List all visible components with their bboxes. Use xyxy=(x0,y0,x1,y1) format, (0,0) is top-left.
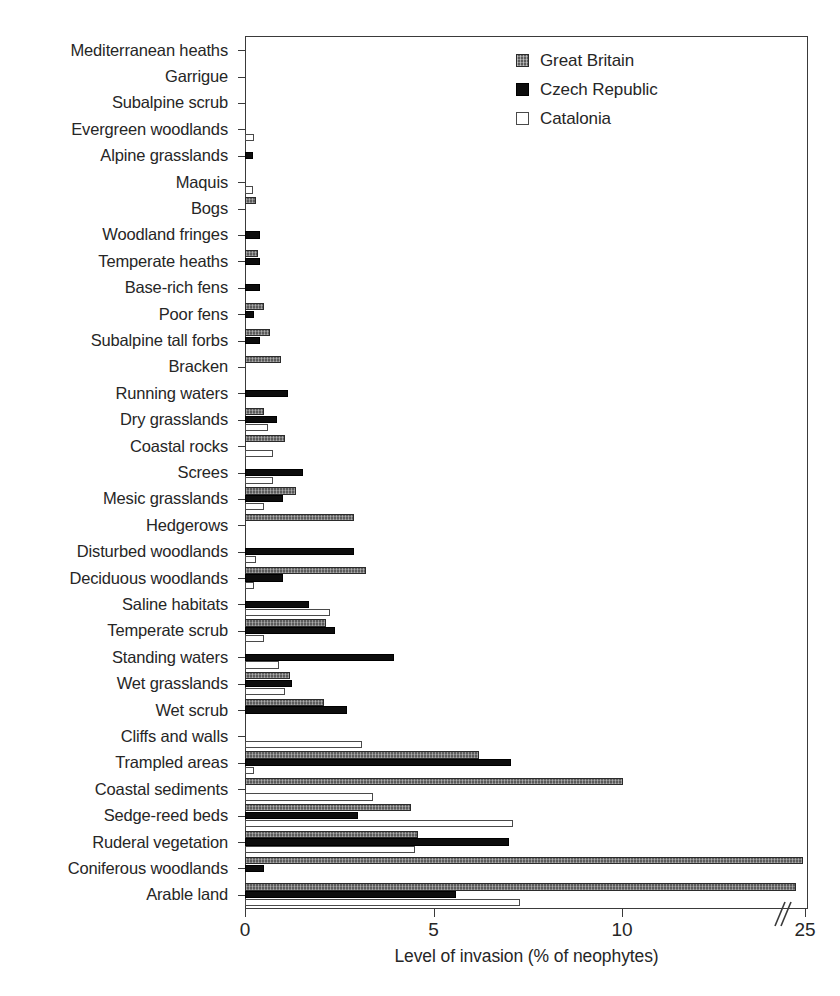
bar-czech-republic xyxy=(245,891,456,898)
bar-group-bogs xyxy=(245,195,808,221)
y-axis-label-saline-habitats: Saline habitats xyxy=(122,596,228,613)
bar-czech-republic xyxy=(245,311,254,318)
bar-great-britain xyxy=(245,699,324,706)
bar-great-britain xyxy=(245,857,803,864)
x-axis-tick-25 xyxy=(805,909,806,917)
bar-catalonia xyxy=(245,424,268,431)
invasion-level-bar-chart: Mediterranean heathsGarrigueSubalpine sc… xyxy=(0,0,840,996)
bar-czech-republic xyxy=(245,337,260,344)
bar-great-britain xyxy=(245,883,796,890)
bar-great-britain xyxy=(245,672,290,679)
bar-great-britain xyxy=(245,514,354,521)
bar-czech-republic xyxy=(245,601,309,608)
y-axis-tick xyxy=(238,50,245,51)
y-axis-label-maquis: Maquis xyxy=(176,174,228,191)
bar-group-arable-land xyxy=(245,882,808,908)
y-axis-label-running-waters: Running waters xyxy=(115,385,228,402)
bar-czech-republic xyxy=(245,865,264,872)
bar-catalonia xyxy=(245,450,273,457)
y-axis-tick xyxy=(238,129,245,130)
y-axis-label-temperate-heaths: Temperate heaths xyxy=(98,253,228,270)
y-axis-tick xyxy=(238,736,245,737)
bar-catalonia xyxy=(245,899,520,906)
y-axis-tick xyxy=(238,77,245,78)
y-axis-label-bracken: Bracken xyxy=(169,358,228,375)
legend-label: Czech Republic xyxy=(540,80,658,100)
bar-catalonia xyxy=(245,609,330,616)
legend-item-catalonia[interactable]: Catalonia xyxy=(516,106,658,131)
legend-item-great-britain[interactable]: Great Britain xyxy=(516,48,658,73)
y-axis-label-woodland-fringes: Woodland fringes xyxy=(102,226,228,243)
y-axis-category-labels: Mediterranean heathsGarrigueSubalpine sc… xyxy=(0,37,238,908)
bar-czech-republic xyxy=(245,627,335,634)
bar-catalonia xyxy=(245,186,253,193)
bar-czech-republic xyxy=(245,284,260,291)
bar-great-britain xyxy=(245,778,623,785)
bar-group-dry-grasslands xyxy=(245,407,808,433)
y-axis-tick xyxy=(238,156,245,157)
y-axis-label-mediterranean-heaths: Mediterranean heaths xyxy=(70,42,228,59)
bar-czech-republic xyxy=(245,574,283,581)
y-axis-tick xyxy=(238,288,245,289)
bar-group-temperate-heaths xyxy=(245,248,808,274)
y-axis-tick xyxy=(238,657,245,658)
bar-catalonia xyxy=(245,846,415,853)
y-axis-tick xyxy=(238,789,245,790)
y-axis-label-coastal-sediments: Coastal sediments xyxy=(95,781,228,798)
bar-group-base-rich-fens xyxy=(245,275,808,301)
y-axis-tick xyxy=(238,684,245,685)
bar-group-bracken xyxy=(245,354,808,380)
legend-item-czech-republic[interactable]: Czech Republic xyxy=(516,77,658,102)
bar-group-coastal-sediments xyxy=(245,776,808,802)
y-axis-label-dry-grasslands: Dry grasslands xyxy=(120,411,228,428)
bar-czech-republic xyxy=(245,812,358,819)
bar-group-wet-grasslands xyxy=(245,670,808,696)
y-axis-label-bogs: Bogs xyxy=(191,200,228,217)
y-axis-label-wet-scrub: Wet scrub xyxy=(155,702,228,719)
y-axis-label-garrigue: Garrigue xyxy=(165,68,228,85)
x-axis-title: Level of invasion (% of neophytes) xyxy=(245,946,808,967)
bar-great-britain xyxy=(245,831,418,838)
bar-rows-container xyxy=(245,37,808,908)
y-axis-label-trampled-areas: Trampled areas xyxy=(115,754,228,771)
y-axis-tick xyxy=(238,763,245,764)
y-axis-label-base-rich-fens: Base-rich fens xyxy=(125,279,228,296)
bar-group-sedge-reed-beds xyxy=(245,802,808,828)
x-axis-tick-label-10: 10 xyxy=(611,920,632,939)
y-axis-tick xyxy=(238,816,245,817)
bar-catalonia xyxy=(245,661,279,668)
y-axis-label-screes: Screes xyxy=(178,464,228,481)
chart-legend: Great BritainCzech RepublicCatalonia xyxy=(516,48,658,135)
y-axis-label-evergreen-woodlands: Evergreen woodlands xyxy=(71,121,228,138)
bar-group-ruderal-vegetation xyxy=(245,829,808,855)
bar-great-britain xyxy=(245,487,296,494)
bar-group-disturbed-woodlands xyxy=(245,538,808,564)
bar-group-hedgerows xyxy=(245,512,808,538)
y-axis-tick xyxy=(238,393,245,394)
bar-catalonia xyxy=(245,793,373,800)
cat-open-square-icon xyxy=(516,112,529,125)
y-axis-label-disturbed-woodlands: Disturbed woodlands xyxy=(77,543,228,560)
bar-catalonia xyxy=(245,767,254,774)
bar-group-running-waters xyxy=(245,380,808,406)
x-axis-tick-label-25: 25 xyxy=(794,920,815,939)
legend-label: Great Britain xyxy=(540,51,634,71)
bar-catalonia xyxy=(245,477,273,484)
y-axis-tick xyxy=(238,604,245,605)
bar-czech-republic xyxy=(245,495,283,502)
bar-group-saline-habitats xyxy=(245,591,808,617)
x-axis-tick-label-5: 5 xyxy=(428,920,439,939)
x-axis-tick-label-0: 0 xyxy=(240,920,251,939)
bar-group-trampled-areas xyxy=(245,750,808,776)
y-axis-tick xyxy=(238,209,245,210)
y-axis-tick xyxy=(238,103,245,104)
y-axis-label-cliffs-and-walls: Cliffs and walls xyxy=(121,728,228,745)
bar-group-alpine-grasslands xyxy=(245,143,808,169)
y-axis-label-wet-grasslands: Wet grasslands xyxy=(117,675,228,692)
y-axis-label-coniferous-woodlands: Coniferous woodlands xyxy=(68,860,228,877)
bar-group-wet-scrub xyxy=(245,697,808,723)
bar-group-screes xyxy=(245,459,808,485)
y-axis-label-hedgerows: Hedgerows xyxy=(146,517,228,534)
bar-great-britain xyxy=(245,619,326,626)
y-axis-tick xyxy=(238,182,245,183)
